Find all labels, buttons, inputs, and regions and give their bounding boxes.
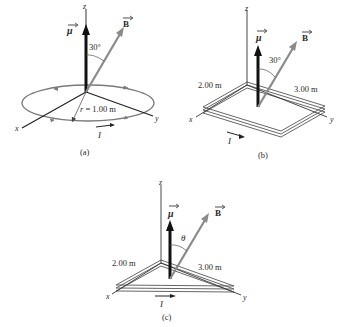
- z-axis-label: z: [158, 178, 163, 187]
- mu-arrowhead-icon: [82, 24, 90, 35]
- x-axis-label: x: [188, 115, 193, 124]
- loop-arrow-icon: [50, 119, 54, 122]
- side-length-label-2: 3.00 m: [198, 262, 222, 272]
- mu-label: μ: [167, 208, 174, 219]
- angle-label: 30°: [269, 55, 281, 65]
- y-axis-label: y: [329, 115, 334, 124]
- x-axis-label: x: [14, 124, 19, 133]
- figure-canvas: z x y μ B 30° r = 1.00 m r = 1.00 m I (a…: [0, 0, 352, 327]
- mu-arrowhead-icon: [254, 45, 262, 56]
- panel-caption-b: (b): [258, 150, 268, 160]
- current-arrowhead-icon: [170, 294, 176, 298]
- b-arrowhead-icon: [289, 41, 297, 51]
- b-label: B: [302, 33, 308, 43]
- panel-c: z x y μ B θ 2.00 m 3.00 m I (c): [105, 178, 247, 322]
- angle-arc: [170, 245, 187, 251]
- panel-caption-a: (a): [80, 147, 90, 157]
- mu-label: μ: [255, 32, 262, 43]
- x-axis-label: x: [105, 292, 110, 301]
- panel-caption-c: (c): [162, 312, 172, 322]
- mu-label: μ: [66, 25, 73, 36]
- angle-arc: [86, 55, 104, 61]
- current-label: I: [227, 136, 232, 146]
- current-label: I: [97, 130, 102, 140]
- panel-a: z x y μ B 30° r = 1.00 m r = 1.00 m I (a…: [14, 2, 159, 157]
- angle-arc: [258, 69, 275, 77]
- side-length-label-2: 3.00 m: [294, 84, 318, 94]
- current-label: I: [159, 299, 164, 309]
- x-axis: [22, 92, 86, 128]
- side-length-label-1: 2.00 m: [198, 80, 222, 90]
- current-arrowhead-icon: [239, 134, 245, 139]
- side-length-label-1: 2.00 m: [112, 258, 136, 268]
- y-axis-label: y: [154, 114, 159, 123]
- current-arrowhead-icon: [110, 123, 115, 127]
- y-axis-label: y: [242, 293, 247, 302]
- b-label: B: [123, 19, 129, 29]
- b-label: B: [215, 208, 221, 218]
- loop-arrow-icon: [124, 116, 128, 119]
- radius-label: r = 1.00 m: [80, 104, 116, 114]
- angle-label: θ: [181, 233, 186, 243]
- mu-arrowhead-icon: [166, 220, 174, 231]
- angle-label: 30°: [89, 42, 101, 52]
- current-arrow: [96, 125, 112, 127]
- z-axis-label: z: [244, 4, 249, 13]
- panel-b: z x y μ B 30° 2.00 m 3.00 m I (b): [188, 4, 334, 160]
- b-arrowhead-icon: [201, 213, 209, 223]
